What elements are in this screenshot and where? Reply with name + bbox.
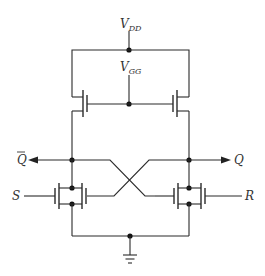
vdd-label: VDD (120, 17, 142, 33)
cross-wire-qbar-to-right-gate (72, 160, 155, 196)
sr-latch-schematic: VDD VGG Q Q (0, 0, 265, 276)
right-load-transistor (173, 90, 189, 160)
left-load-transistor (72, 90, 87, 160)
right-pulldown-pair (174, 160, 205, 236)
ground-icon (123, 255, 137, 263)
left-pulldown-pair (55, 160, 86, 236)
q-arrow-icon (221, 157, 231, 164)
r-label: R (244, 189, 254, 203)
q-label: Q (234, 153, 244, 167)
q-bar-label: Q (17, 153, 27, 167)
s-label: S (12, 189, 20, 203)
q-bar-arrow-icon (28, 157, 38, 164)
vgg-label: VGG (120, 60, 142, 76)
